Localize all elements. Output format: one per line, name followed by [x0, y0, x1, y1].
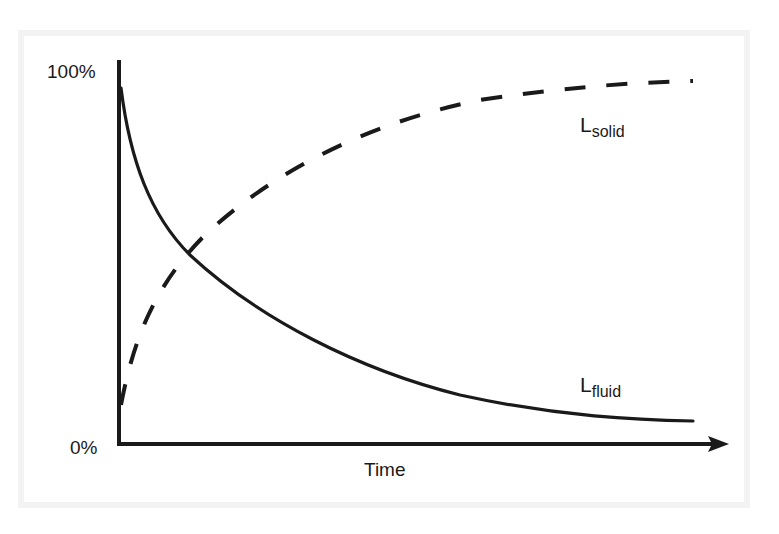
series-label-fluid: Lfluid [580, 374, 621, 400]
series-label-solid-sub: solid [592, 123, 625, 140]
series-label-fluid-main: L [580, 373, 592, 396]
series-label-solid: Lsolid [580, 114, 625, 140]
series-label-solid-main: L [580, 113, 592, 136]
x-axis-label: Time [364, 460, 406, 479]
series-label-fluid-sub: fluid [592, 383, 621, 400]
y-tick-100: 100% [47, 62, 96, 81]
chart-plot [0, 0, 779, 534]
y-tick-0: 0% [70, 438, 97, 457]
